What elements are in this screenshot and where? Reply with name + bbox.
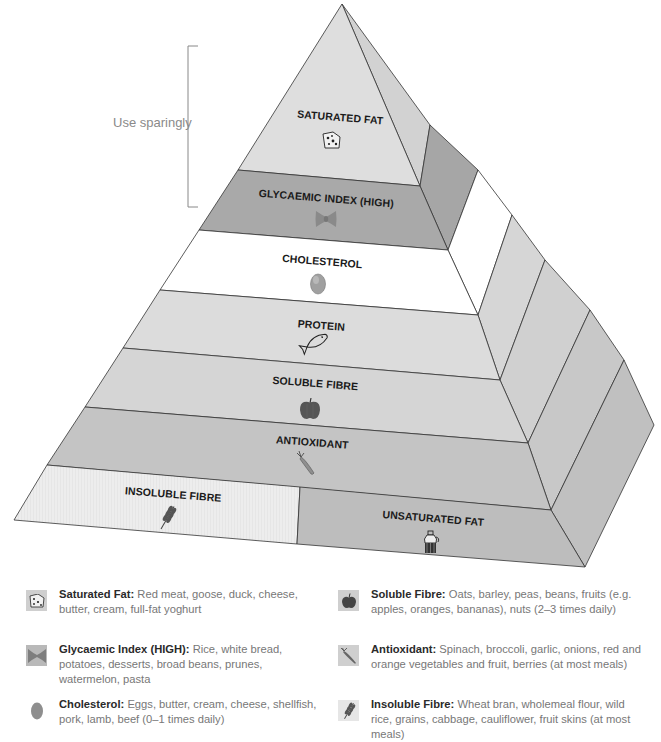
legend-item-glycaemic-index: Glycaemic Index (HIGH): Rice, white brea… [26,642,326,687]
use-sparingly-bracket: Use sparingly [113,46,198,207]
legend-title: Cholesterol: [59,698,124,710]
pasta-bow-icon [26,645,47,666]
legend-title: Glycaemic Index (HIGH): [59,643,190,655]
legend-title: Saturated Fat: [59,588,134,600]
legend-title: Soluble Fibre: [371,588,446,600]
legend-title: Insoluble Fibre: [371,698,454,710]
egg-icon [311,274,326,294]
pyramid-graphic: Use sparingly SATURATED FAT GLYCAEMIC IN… [0,0,661,580]
legend-item-saturated-fat: Saturated Fat: Red meat, goose, duck, ch… [26,587,326,617]
egg-icon [26,700,47,721]
legend-title: Antioxidant: [371,643,436,655]
cheese-icon [26,590,47,611]
legend-item-antioxidant: Antioxidant: Spinach, broccoli, garlic, … [338,642,648,672]
legend-item-cholesterol: Cholesterol: Eggs, butter, cream, cheese… [26,697,326,727]
legend-item-soluble-fibre: Soluble Fibre: Oats, barley, peas, beans… [338,587,648,617]
use-sparingly-label: Use sparingly [113,115,192,130]
carrot-icon [338,645,359,666]
apple-icon [338,590,359,611]
legend: Saturated Fat: Red meat, goose, duck, ch… [0,580,661,727]
wheat-icon [338,700,359,721]
legend-item-insoluble-fibre: Insoluble Fibre: Wheat bran, wholemeal f… [338,697,648,742]
